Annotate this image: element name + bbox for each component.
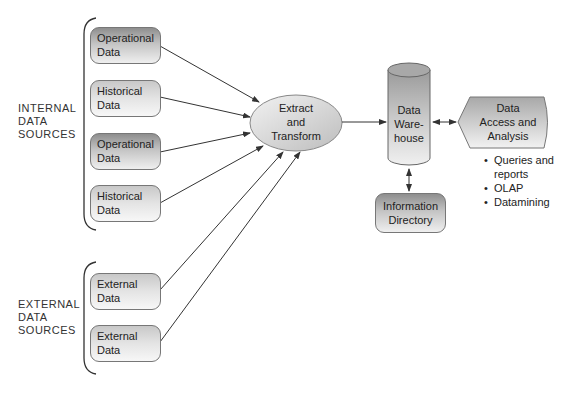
source-label: Data <box>97 291 154 305</box>
internal-sources-label: INTERNAL DATA SOURCES <box>18 102 76 141</box>
external-sources-label: EXTERNAL DATA SOURCES <box>18 298 80 337</box>
data-access-analysis-label: Data Access and Analysis <box>468 101 548 143</box>
source-label: External <box>97 329 154 343</box>
internal-label-line2: DATA <box>18 115 76 128</box>
source-label: Data <box>97 45 154 59</box>
access-line1: Data <box>468 101 548 115</box>
diagram-connectors <box>0 0 568 395</box>
extract-line1: Extract <box>256 101 336 115</box>
source-operational-data-1: Operational Data <box>90 27 161 64</box>
extract-line2: and <box>256 115 336 129</box>
extract-line3: Transform <box>256 129 336 143</box>
list-item-datamining: Datamining <box>484 195 554 209</box>
directory-line2: Directory <box>378 213 443 227</box>
access-line2: Access and <box>468 115 548 129</box>
source-historical-data-1: Historical Data <box>90 80 161 117</box>
source-label: Data <box>97 151 154 165</box>
list-item-olap: OLAP <box>484 181 554 195</box>
access-tools-list: Queries and reports OLAP Datamining <box>484 153 554 209</box>
external-label-line3: SOURCES <box>18 324 80 337</box>
source-external-data-1: External Data <box>90 273 161 310</box>
information-directory-box: Information Directory <box>375 193 446 233</box>
source-external-data-2: External Data <box>90 325 161 362</box>
source-label: Operational <box>97 31 154 45</box>
directory-line1: Information <box>378 199 443 213</box>
source-label: Historical <box>97 189 154 203</box>
external-label-line1: EXTERNAL <box>18 298 80 311</box>
data-warehouse-label: Data Ware- house <box>388 103 430 145</box>
source-operational-data-2: Operational Data <box>90 133 161 170</box>
source-label: Data <box>97 98 154 112</box>
internal-label-line3: SOURCES <box>18 128 76 141</box>
internal-label-line1: INTERNAL <box>18 102 76 115</box>
warehouse-line2: Ware- <box>388 117 430 131</box>
access-line3: Analysis <box>468 129 548 143</box>
extract-transform-label: Extract and Transform <box>256 101 336 143</box>
warehouse-line1: Data <box>388 103 430 117</box>
list-item-queries-cont: reports <box>484 167 554 181</box>
source-label: Data <box>97 343 154 357</box>
source-label: External <box>97 277 154 291</box>
source-historical-data-2: Historical Data <box>90 185 161 222</box>
source-label: Historical <box>97 84 154 98</box>
list-item-queries: Queries and <box>484 153 554 167</box>
warehouse-line3: house <box>388 131 430 145</box>
source-label: Operational <box>97 137 154 151</box>
external-label-line2: DATA <box>18 311 80 324</box>
source-label: Data <box>97 203 154 217</box>
